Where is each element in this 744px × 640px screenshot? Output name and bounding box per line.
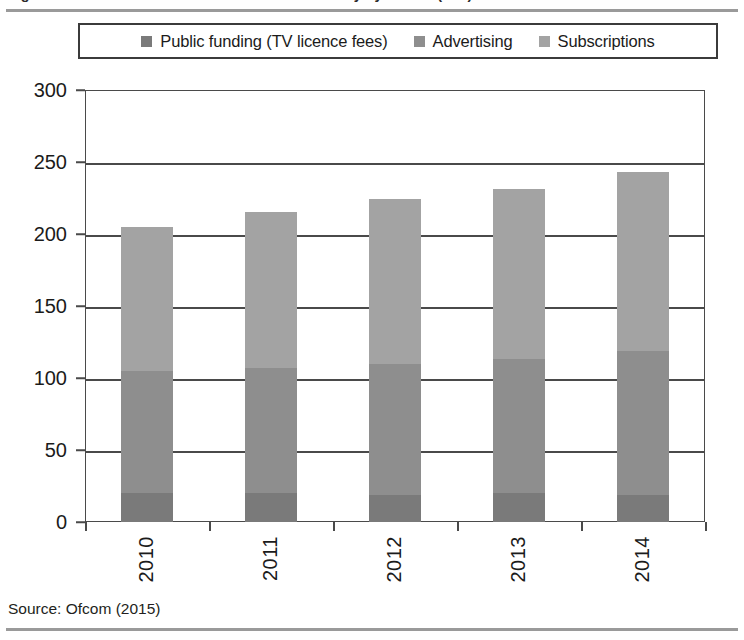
legend-item-public-funding[interactable]: Public funding (TV licence fees) <box>141 32 387 51</box>
x-tick-label-2011: 2011 <box>259 536 282 581</box>
bar-segment[interactable] <box>493 359 545 493</box>
bar-segment[interactable] <box>245 212 297 368</box>
bar-segment[interactable] <box>121 493 173 522</box>
bar-stack-2011[interactable] <box>245 212 297 522</box>
bar-segment[interactable] <box>617 495 669 522</box>
bar-segment[interactable] <box>617 172 669 351</box>
bar-segment[interactable] <box>121 227 173 371</box>
legend-label-public-funding: Public funding (TV licence fees) <box>160 32 387 51</box>
x-tick-label-2010: 2010 <box>135 536 158 583</box>
bar-segment[interactable] <box>245 368 297 493</box>
x-tick-mark <box>209 522 211 531</box>
bar-segment[interactable] <box>369 495 421 522</box>
y-tick-label: 0 <box>7 511 67 534</box>
y-tick-label: 250 <box>7 151 67 174</box>
x-tick-label-2013: 2013 <box>507 536 530 583</box>
bar-stack-2010[interactable] <box>121 227 173 522</box>
legend-swatch-advertising <box>414 36 425 47</box>
legend-item-advertising[interactable]: Advertising <box>414 32 513 51</box>
y-tick-mark <box>76 233 85 235</box>
bar-segment[interactable] <box>245 493 297 522</box>
legend-label-subscriptions: Subscriptions <box>558 32 655 51</box>
bar-stack-2012[interactable] <box>369 199 421 522</box>
y-tick-label: 50 <box>7 439 67 462</box>
bar-segment[interactable] <box>369 364 421 495</box>
y-tick-label: 150 <box>7 295 67 318</box>
bar-segment[interactable] <box>493 189 545 359</box>
bar-segment[interactable] <box>369 199 421 363</box>
legend-item-subscriptions[interactable]: Subscriptions <box>539 32 655 51</box>
x-tick-mark <box>333 522 335 531</box>
bar-series-layer <box>85 90 705 522</box>
source-note: Source: Ofcom (2015) <box>8 600 160 618</box>
x-tick-label-2014: 2014 <box>631 536 654 583</box>
y-tick-label: 100 <box>7 367 67 390</box>
legend-swatch-subscriptions <box>539 36 550 47</box>
bottom-rule <box>6 628 738 631</box>
x-tick-mark <box>457 522 459 531</box>
y-tick-mark <box>76 377 85 379</box>
y-axis: 050100150200250300 <box>0 90 85 522</box>
y-tick-mark <box>76 521 85 523</box>
chart-legend: Public funding (TV licence fees) Adverti… <box>78 23 718 59</box>
bar-stack-2014[interactable] <box>617 172 669 522</box>
legend-swatch-public-funding <box>141 36 152 47</box>
y-tick-mark <box>76 89 85 91</box>
y-tick-mark <box>76 161 85 163</box>
bar-stack-2013[interactable] <box>493 189 545 522</box>
y-tick-label: 200 <box>7 223 67 246</box>
top-rule <box>6 9 738 12</box>
figure-title: Figure 1: Total revenue of the UK televi… <box>8 0 736 4</box>
legend-label-advertising: Advertising <box>433 32 513 51</box>
bar-segment[interactable] <box>617 351 669 495</box>
x-tick-label-2012: 2012 <box>383 536 406 583</box>
figure-root: Figure 1: Total revenue of the UK televi… <box>0 0 744 640</box>
y-tick-mark <box>76 449 85 451</box>
bar-segment[interactable] <box>493 493 545 522</box>
y-tick-mark <box>76 305 85 307</box>
bar-segment[interactable] <box>121 371 173 493</box>
x-tick-mark <box>85 522 87 531</box>
x-tick-mark <box>581 522 583 531</box>
x-tick-mark <box>705 522 707 531</box>
y-tick-label: 300 <box>7 79 67 102</box>
